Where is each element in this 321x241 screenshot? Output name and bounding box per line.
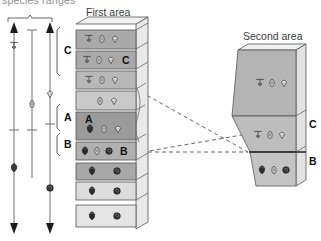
layer-L3 xyxy=(76,71,136,89)
range-line-3 xyxy=(46,22,54,234)
layer-L7 xyxy=(76,163,136,180)
column-side-face xyxy=(136,17,148,229)
bracket-label-A: A xyxy=(64,111,72,123)
figure-canvas: species ranges xyxy=(0,0,321,241)
bracket-C xyxy=(57,27,60,76)
bracket-A xyxy=(57,104,60,131)
range-line-1 xyxy=(10,22,18,234)
second-area-tag-B: B xyxy=(309,155,317,167)
correlation-dashed-lines xyxy=(141,92,248,152)
bracket-label-B: B xyxy=(64,138,72,150)
first-area-tag-B: B xyxy=(120,145,128,157)
top-brace xyxy=(8,15,52,22)
layer-L4 xyxy=(76,91,136,110)
second-top-face xyxy=(238,44,306,50)
bracket-B xyxy=(57,133,60,156)
second-area-title: Second area xyxy=(243,30,303,42)
layer-L9 xyxy=(76,205,136,227)
layer-L1 xyxy=(76,30,136,49)
first-area-tag-C: C xyxy=(122,54,130,66)
second-layer-S2 xyxy=(232,116,296,152)
column-top-face xyxy=(76,17,148,24)
range-line-2 xyxy=(27,30,37,178)
second-area-block xyxy=(232,44,306,186)
range-chart-group xyxy=(8,15,60,234)
second-area-tag-C: C xyxy=(309,118,317,130)
first-area-tag-A: A xyxy=(85,113,93,125)
layer-L8 xyxy=(76,182,136,200)
first-area-title: First area xyxy=(86,6,130,18)
bracket-label-C: C xyxy=(64,44,72,56)
